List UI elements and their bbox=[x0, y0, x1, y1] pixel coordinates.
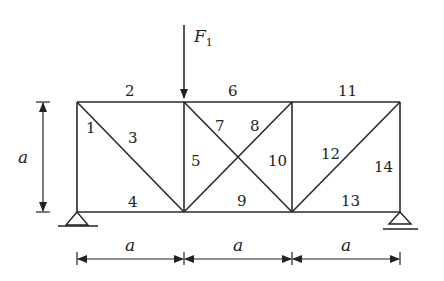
load-f1: F1 bbox=[184, 25, 213, 98]
label-member-2: 2 bbox=[125, 82, 135, 100]
truss-diagram: 1 2 3 4 5 6 7 8 9 10 11 12 13 14 F1 a bbox=[0, 0, 444, 281]
height-label: a bbox=[18, 147, 28, 167]
label-member-13: 13 bbox=[341, 192, 360, 210]
label-member-7: 7 bbox=[215, 117, 225, 135]
label-member-1: 1 bbox=[86, 119, 96, 137]
label-member-3: 3 bbox=[128, 129, 138, 147]
span-dimensions: a a a bbox=[77, 235, 400, 265]
label-member-6: 6 bbox=[228, 82, 238, 100]
label-member-8: 8 bbox=[250, 117, 260, 135]
label-member-11: 11 bbox=[338, 82, 357, 100]
span-label-2: a bbox=[233, 235, 243, 255]
span-label-3: a bbox=[341, 235, 351, 255]
label-member-4: 4 bbox=[128, 193, 138, 211]
label-member-9: 9 bbox=[237, 192, 247, 210]
load-label: F1 bbox=[193, 26, 213, 49]
pin-support-left bbox=[58, 212, 98, 226]
label-member-14: 14 bbox=[374, 158, 393, 176]
roller-support-right bbox=[383, 212, 418, 229]
label-member-10: 10 bbox=[268, 152, 287, 170]
span-label-1: a bbox=[125, 235, 135, 255]
height-dimension: a bbox=[18, 102, 50, 212]
label-member-5: 5 bbox=[191, 152, 201, 170]
label-member-12: 12 bbox=[321, 145, 340, 163]
